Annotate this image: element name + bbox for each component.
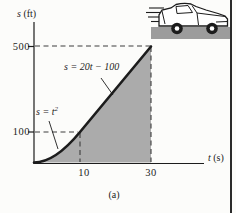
y-tick-label-100: 100	[6, 126, 30, 138]
y-tick-label-500: 500	[6, 41, 30, 53]
parabola-label-leader	[49, 121, 58, 149]
rear-wheel-hub	[175, 26, 180, 31]
x-axis-label: t (s)	[208, 152, 224, 164]
car-icon	[146, 0, 230, 42]
x-tick-label-30: 30	[140, 167, 162, 179]
road	[151, 27, 230, 39]
page-border-line	[230, 0, 232, 213]
front-wheel-hub	[210, 26, 215, 31]
y-axis-label: s (ft)	[17, 8, 36, 20]
figure-caption: (a)	[101, 189, 127, 201]
x-tick-label-10: 10	[73, 167, 95, 179]
line-equation-label: s = 20t − 100	[64, 61, 119, 73]
x-axis-unit: (s)	[211, 152, 224, 163]
y-axis-unit: (ft)	[21, 8, 36, 19]
parabola-equation-exponent: 2	[54, 105, 58, 113]
figure-panel: s (ft) 500 100 10 30 t (s) s = t2 s = 20…	[0, 0, 236, 213]
parabola-equation-label: s = t2	[36, 103, 58, 118]
line-label-leader	[101, 78, 113, 95]
parabola-equation-text: s = t	[36, 106, 54, 117]
